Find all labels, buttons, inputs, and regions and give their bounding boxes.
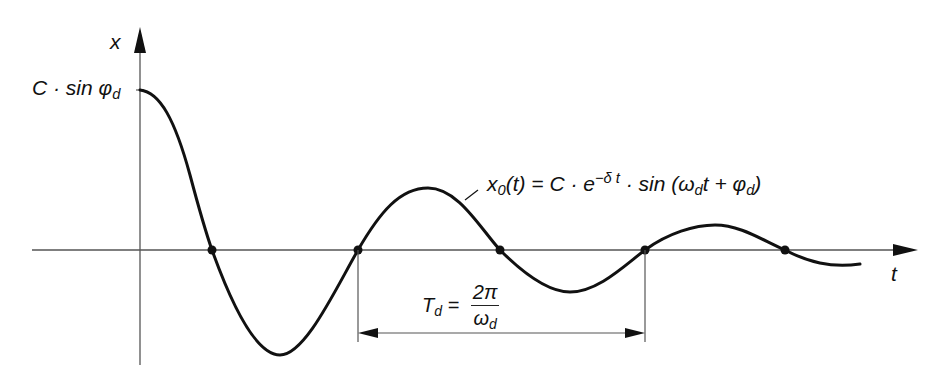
eq-rhs-end: ) — [754, 172, 761, 195]
zero-crossing-dot — [208, 246, 217, 255]
period-denominator-main: ω — [473, 307, 489, 329]
period-eq: = — [442, 294, 459, 316]
dimension-arrow-left-icon — [358, 328, 378, 338]
dimension-arrow-right-icon — [625, 328, 645, 338]
period-fraction: 2π ωd — [471, 281, 500, 332]
period-lhs-sub: d — [434, 303, 442, 319]
y-intercept-sub: d — [112, 86, 120, 102]
x-axis-arrow-icon — [893, 244, 918, 256]
period-denominator: ωd — [471, 306, 500, 332]
eq-rhs-pre: · sin (ω — [620, 172, 695, 195]
curve-equation-label: x0(t) = C · e−δ t · sin (ωdt + φd) — [487, 170, 761, 198]
y-intercept-label: C · sin φd — [32, 76, 120, 102]
y-axis-arrow-icon — [134, 27, 146, 53]
period-denominator-sub: d — [489, 316, 497, 332]
zero-crossing-dot — [781, 246, 790, 255]
eq-lhs: x — [487, 172, 498, 195]
zero-crossing-dot — [496, 246, 505, 255]
x-axis-label: t — [891, 262, 897, 286]
eq-lhs-sub: 0 — [498, 182, 506, 198]
period-numerator: 2π — [471, 281, 500, 306]
y-axis-label: x — [110, 30, 121, 54]
curve-label-leader — [465, 190, 478, 200]
eq-rhs-mid: t + φ — [703, 172, 746, 195]
eq-rhs-sub1: d — [695, 182, 703, 198]
period-lhs: T — [422, 294, 434, 316]
y-intercept-main: C · sin φ — [32, 76, 112, 99]
damped-curve — [140, 90, 860, 355]
period-label: Td = 2π ωd — [422, 281, 499, 332]
eq-lhs-arg: (t) = C · e — [506, 172, 595, 195]
eq-exponent: −δ t — [595, 170, 620, 186]
